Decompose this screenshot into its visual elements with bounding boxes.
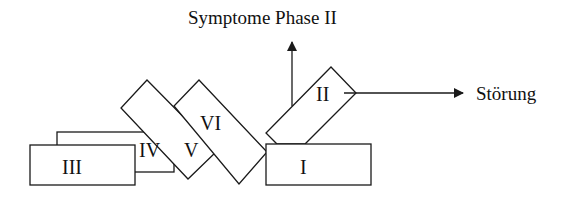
label-box-i: I bbox=[300, 157, 307, 177]
label-box-ii: II bbox=[316, 84, 329, 104]
box-i bbox=[266, 144, 371, 185]
label-box-iii: III bbox=[62, 157, 82, 177]
title-symptome-phase-ii: Symptome Phase II bbox=[188, 8, 337, 27]
label-stoerung: Störung bbox=[476, 84, 536, 103]
box-iii bbox=[30, 145, 135, 185]
label-box-vi: VI bbox=[200, 113, 221, 133]
label-box-iv: IV bbox=[139, 140, 160, 160]
label-box-v: V bbox=[184, 140, 198, 160]
box-ii bbox=[266, 67, 356, 144]
